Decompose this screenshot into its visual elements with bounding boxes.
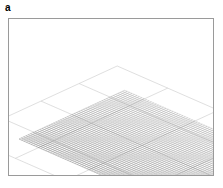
wireframe-surface-plot bbox=[9, 19, 213, 175]
figure-panel: a bbox=[0, 0, 223, 188]
panel-label: a bbox=[5, 2, 11, 14]
surface-mesh bbox=[19, 90, 213, 175]
plot-frame bbox=[8, 18, 214, 176]
